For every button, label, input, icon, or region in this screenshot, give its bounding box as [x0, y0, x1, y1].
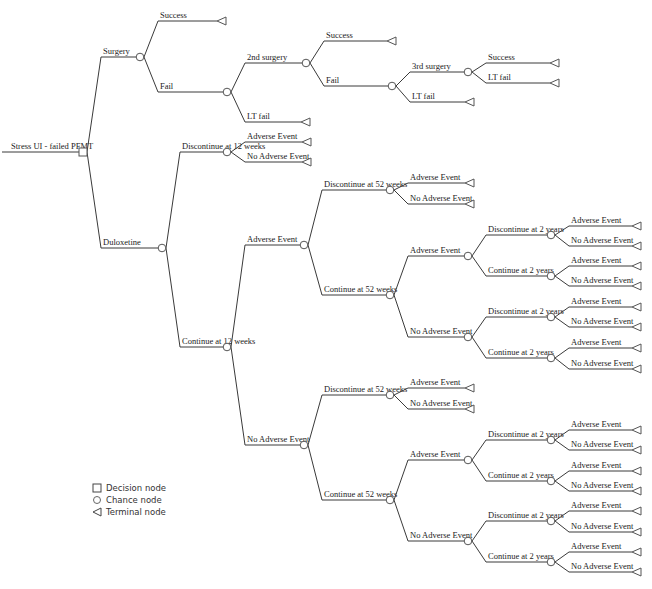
- branch-label: Adverse Event: [247, 234, 298, 244]
- chance-node-icon: [547, 436, 555, 444]
- branch-label: Adverse Event: [571, 460, 622, 470]
- terminal-node-icon: [632, 446, 641, 454]
- branch-line: [472, 521, 547, 541]
- branch-label: Adverse Event: [571, 296, 622, 306]
- branch-line: [472, 235, 547, 256]
- branch-line: [144, 57, 223, 92]
- branch-label: Continue at 52 weeks: [324, 284, 397, 294]
- chance-node-icon: [386, 391, 394, 399]
- terminal-node-icon: [550, 59, 559, 67]
- chance-node-icon: [547, 313, 555, 321]
- branch-label: No Adverse Event: [571, 235, 634, 245]
- terminal-node-icon: [632, 528, 641, 536]
- branch-label: No Adverse Event: [571, 316, 634, 326]
- branch-label: Adverse Event: [571, 500, 622, 510]
- legend-chance-label: Chance node: [106, 495, 162, 505]
- branch-line: [394, 460, 464, 500]
- branch-line: [231, 63, 302, 92]
- chance-node-icon: [223, 88, 231, 96]
- branch-label: Adverse Event: [571, 215, 622, 225]
- terminal-node-icon: [217, 17, 226, 25]
- branch-label: Surgery: [103, 46, 131, 56]
- chance-node-icon: [223, 148, 231, 156]
- chance-node-icon: [386, 186, 394, 194]
- terminal-node-icon: [632, 323, 641, 331]
- branch-line: [472, 72, 550, 83]
- branch-label: Duloxetine: [103, 237, 141, 247]
- terminal-node-icon: [387, 37, 396, 45]
- terminal-node-icon: [632, 568, 641, 576]
- branch-label: Fail: [160, 81, 174, 91]
- terminal-node-icon: [632, 262, 641, 270]
- terminal-node-icon: [632, 344, 641, 352]
- terminal-node-icon: [632, 548, 641, 556]
- terminal-node-icon: [632, 222, 641, 230]
- branch-line: [166, 248, 223, 347]
- branch-line: [231, 245, 300, 347]
- terminal-node-icon: [302, 138, 311, 146]
- branch-line: [555, 511, 632, 521]
- branch-label: Adverse Event: [410, 449, 461, 459]
- branch-line: [308, 190, 386, 245]
- legend-terminal: Terminal node: [92, 506, 166, 518]
- chance-node-icon: [300, 241, 308, 249]
- branch-line: [310, 41, 387, 63]
- branch-line: [144, 21, 217, 57]
- branch-label: LT fail: [488, 72, 512, 82]
- branch-label: Success: [488, 52, 515, 62]
- branch-line: [231, 347, 300, 445]
- terminal-node-icon: [632, 467, 641, 475]
- branch-label: Continue at 2 years: [488, 551, 554, 561]
- branch-label: No Adverse Event: [410, 193, 473, 203]
- chance-node-icon: [158, 244, 166, 252]
- branch-line: [555, 348, 632, 358]
- branch-label: No Adverse Event: [247, 151, 310, 161]
- terminal-node-icon: [301, 118, 310, 126]
- branch-label: No Adverse Event: [571, 275, 634, 285]
- chance-node-icon: [302, 59, 310, 67]
- branch-line: [472, 63, 550, 72]
- branch-label: No Adverse Event: [571, 439, 634, 449]
- branch-label: No Adverse Event: [571, 521, 634, 531]
- branch-label: LT fail: [247, 111, 271, 121]
- branch-label: No Adverse Event: [571, 358, 634, 368]
- chance-node-icon: [547, 558, 555, 566]
- chance-node-icon: [547, 517, 555, 525]
- circle-icon: [92, 495, 102, 505]
- chance-node-icon: [386, 291, 394, 299]
- branch-label: Continue at 2 years: [488, 347, 554, 357]
- branch-line: [87, 152, 158, 248]
- chance-node-icon: [547, 231, 555, 239]
- branch-label: Discontinue at 52 weeks: [324, 179, 407, 189]
- branch-line: [394, 256, 464, 295]
- chance-node-icon: [464, 252, 472, 260]
- branch-label: LT fail: [412, 91, 436, 101]
- terminal-node-icon: [465, 384, 474, 392]
- chance-node-icon: [136, 53, 144, 61]
- branch-line: [310, 63, 388, 86]
- branch-label: No Adverse Event: [410, 326, 473, 336]
- branch-label: No Adverse Event: [571, 480, 634, 490]
- chance-node-icon: [464, 68, 472, 76]
- branch-label: Continue at 2 years: [488, 265, 554, 275]
- branch-label: Adverse Event: [571, 255, 622, 265]
- branch-label: Continue at 12 weeks: [182, 336, 255, 346]
- branch-label: 3rd surgery: [412, 61, 452, 71]
- branch-line: [555, 226, 632, 235]
- branch-label: Fail: [326, 75, 340, 85]
- chance-node-icon: [464, 333, 472, 341]
- branch-line: [396, 72, 464, 86]
- branch-label: Continue at 52 weeks: [324, 489, 397, 499]
- branch-label: Adverse Event: [571, 337, 622, 347]
- branch-label: No Adverse Event: [410, 398, 473, 408]
- chance-node-icon: [547, 272, 555, 280]
- branch-label: No Adverse Event: [410, 530, 473, 540]
- branch-line: [87, 57, 136, 152]
- chance-node-icon: [386, 496, 394, 504]
- square-icon: [92, 483, 102, 493]
- triangle-icon: [92, 507, 102, 517]
- terminal-node-icon: [465, 98, 474, 106]
- terminal-node-icon: [632, 303, 641, 311]
- branch-label: Discontinue at 52 weeks: [324, 384, 407, 394]
- branch-label: Adverse Event: [410, 377, 461, 387]
